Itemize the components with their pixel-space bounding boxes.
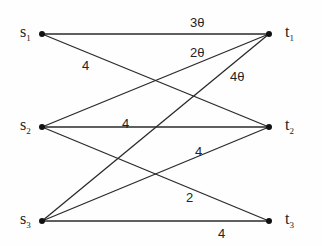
node-s2 — [39, 124, 45, 130]
edge-weight-label: 3θ — [190, 16, 204, 29]
edge-weight-label: 2θ — [190, 46, 204, 59]
edge-weight-label: 2 — [186, 191, 193, 204]
node-t3 — [266, 218, 272, 224]
edge-weight-label: 4 — [195, 145, 202, 158]
node-t1 — [266, 31, 272, 37]
node-s3 — [39, 218, 45, 224]
node-label-s1: s1 — [20, 24, 31, 43]
node-label-t3: t3 — [285, 211, 294, 230]
node-label-s3: s3 — [20, 211, 31, 230]
edge-weight-label: 4 — [218, 227, 225, 240]
node-label-s2: s2 — [20, 117, 31, 136]
graph-edges — [0, 0, 322, 246]
bipartite-graph-diagram: 3θ42θ424θ44s1s2s3t1t2t3 — [0, 0, 322, 246]
node-label-t1: t1 — [285, 24, 294, 43]
node-label-t2: t2 — [285, 117, 294, 136]
edge-weight-label: 4θ — [230, 70, 244, 83]
edge-weight-label: 4 — [122, 117, 129, 130]
node-s1 — [39, 31, 45, 37]
edge-weight-label: 4 — [82, 59, 89, 72]
node-t2 — [266, 124, 272, 130]
